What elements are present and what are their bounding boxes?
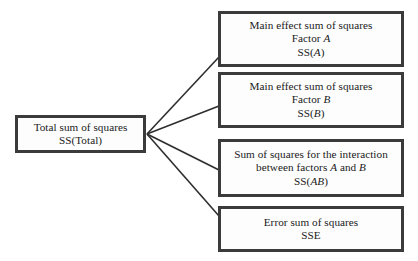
node-error-sum-of-squares: Error sum of squares SSE <box>218 206 404 252</box>
anova-partition-diagram: Total sum of squares SS(Total) Main effe… <box>0 0 418 261</box>
node-main-effect-factor-b: Main effect sum of squares Factor B SS(B… <box>218 72 404 128</box>
node-interaction-line-1: Sum of squares for the interaction <box>234 148 388 161</box>
node-interaction-line-3: SS(AB) <box>294 175 328 188</box>
node-factor-a-line-2: Factor A <box>292 32 331 45</box>
node-total-line-2: SS(Total) <box>59 134 102 147</box>
node-error-line-1: Error sum of squares <box>264 216 359 229</box>
node-total-sum-of-squares: Total sum of squares SS(Total) <box>15 115 146 153</box>
node-factor-a-line-3: SS(A) <box>298 46 325 59</box>
node-factor-b-line-1: Main effect sum of squares <box>250 80 373 93</box>
connector-total-to-interaction-ab <box>147 134 219 170</box>
node-factor-a-line-1: Main effect sum of squares <box>250 19 373 32</box>
node-total-line-1: Total sum of squares <box>34 121 128 134</box>
connector-total-to-error <box>147 134 219 216</box>
node-interaction-ab: Sum of squares for the interaction betwe… <box>218 139 404 197</box>
connector-total-to-factor-a <box>147 57 219 134</box>
node-factor-b-line-2: Factor B <box>292 93 331 106</box>
node-error-line-2: SSE <box>301 229 320 242</box>
node-interaction-line-2: between factors A and B <box>256 161 366 174</box>
node-main-effect-factor-a: Main effect sum of squares Factor A SS(A… <box>218 11 404 67</box>
connector-total-to-factor-b <box>147 106 219 134</box>
node-factor-b-line-3: SS(B) <box>298 107 325 120</box>
